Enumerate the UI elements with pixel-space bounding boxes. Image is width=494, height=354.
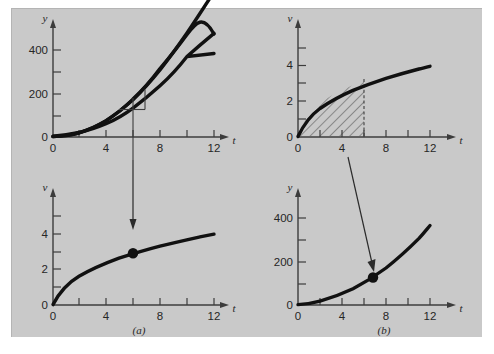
ytick-label-0: 0 bbox=[287, 299, 293, 311]
xtick-label-4: 4 bbox=[339, 142, 346, 154]
point-marker-v6 bbox=[128, 248, 138, 258]
plot-bottom-left: v 4 2 0 t 0 4 bbox=[42, 160, 237, 322]
xtick-label-12: 12 bbox=[208, 310, 221, 322]
xtick-label-0: 0 bbox=[295, 310, 301, 322]
xtick-label-0: 0 bbox=[295, 142, 301, 154]
y-axis-bottom-right: y 400 200 0 bbox=[274, 181, 306, 311]
ytick-label-v4: 4 bbox=[42, 228, 49, 240]
axis-label-y: y bbox=[42, 12, 48, 24]
ytick-label-v0: 0 bbox=[42, 299, 48, 311]
x-axis-bottom-left: t 0 4 8 12 bbox=[50, 298, 237, 322]
axis-label-y: y bbox=[287, 181, 293, 193]
xtick-label-8: 8 bbox=[157, 142, 163, 154]
axis-label-v: v bbox=[288, 12, 293, 24]
axis-label-t: t bbox=[232, 302, 236, 314]
y-axis-top-left: y 400 200 0 bbox=[29, 12, 61, 143]
axis-label-t: t bbox=[232, 134, 236, 146]
xtick-label-12: 12 bbox=[424, 142, 437, 154]
axis-label-v: v bbox=[43, 181, 48, 193]
curve-v-of-t bbox=[53, 234, 214, 304]
xtick-label-8: 8 bbox=[383, 310, 389, 322]
figure-graphics: y 400 200 0 t 0 bbox=[0, 0, 494, 354]
xtick-label-0: 0 bbox=[50, 310, 56, 322]
caption-panel-a: (a) bbox=[133, 324, 146, 337]
y-axis-bottom-left: v 4 2 0 bbox=[42, 181, 61, 311]
xtick-label-4: 4 bbox=[103, 310, 110, 322]
y-axis-top-right: v 4 2 0 bbox=[287, 12, 306, 143]
xtick-label-0: 0 bbox=[50, 142, 56, 154]
xtick-label-4: 4 bbox=[103, 142, 110, 154]
ytick-label-400: 400 bbox=[274, 212, 293, 224]
arrow-integral-link bbox=[348, 157, 376, 272]
ytick-label-400: 400 bbox=[29, 44, 48, 56]
plot-bottom-right: y 400 200 0 t 0 4 bbox=[274, 157, 464, 322]
figure-container: y 400 200 0 t 0 bbox=[0, 0, 494, 354]
ytick-label-200: 200 bbox=[29, 88, 48, 100]
ytick-label-0: 0 bbox=[42, 131, 48, 143]
ytick-label-v2: 2 bbox=[287, 95, 293, 107]
ytick-label-v4: 4 bbox=[287, 59, 294, 71]
curve-y-of-t bbox=[298, 226, 430, 305]
ytick-label-200: 200 bbox=[274, 256, 293, 268]
axis-label-t: t bbox=[459, 134, 463, 146]
xtick-label-4: 4 bbox=[339, 310, 346, 322]
ytick-label-v0: 0 bbox=[287, 131, 293, 143]
plot-top-left: y 400 200 0 t 0 bbox=[29, 0, 237, 160]
xtick-label-12: 12 bbox=[424, 310, 437, 322]
xtick-label-12: 12 bbox=[208, 142, 221, 154]
ytick-label-v2: 2 bbox=[42, 263, 48, 275]
point-marker-y6 bbox=[368, 272, 378, 282]
arrow-derivative-link bbox=[130, 160, 137, 230]
xtick-label-8: 8 bbox=[157, 310, 163, 322]
axis-label-t: t bbox=[459, 302, 463, 314]
xtick-label-8: 8 bbox=[383, 142, 389, 154]
caption-panel-b: (b) bbox=[378, 324, 391, 337]
plot-top-right: v 4 2 0 t 0 4 bbox=[287, 12, 464, 154]
x-axis-top-right: t 0 4 8 12 bbox=[295, 130, 464, 154]
